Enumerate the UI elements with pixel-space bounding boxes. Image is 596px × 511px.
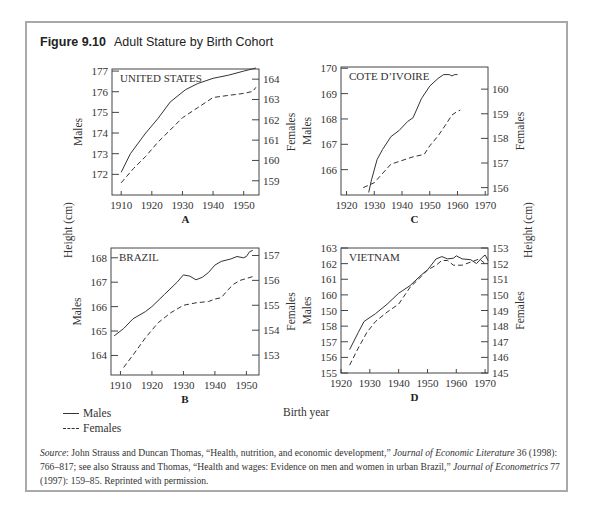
plot-box-B <box>111 248 259 375</box>
y2-tick-label: 153 <box>263 349 280 361</box>
x-tick-label: 1930 <box>363 199 386 211</box>
x-tick-label: 1930 <box>172 379 195 391</box>
y-tick-label: 150 <box>321 305 338 317</box>
x-tick-label: 1910 <box>110 199 133 211</box>
x-tick-label: 1950 <box>233 199 256 211</box>
legend-item-females: Females <box>63 421 121 436</box>
solid-line-swatch <box>63 413 79 414</box>
males-axis-label: Males <box>301 116 313 145</box>
y2-tick-label: 149 <box>492 305 509 317</box>
dashed-line-swatch <box>63 428 79 429</box>
y-tick-label: 168 <box>321 113 338 125</box>
y-tick-label: 168 <box>91 252 108 264</box>
females-line <box>124 277 253 368</box>
y2-tick-label: 163 <box>263 93 280 105</box>
country-label: VIETNAM <box>349 251 400 263</box>
source-text: : John Strauss and Duncan Thomas, “Healt… <box>66 447 393 458</box>
y-tick-label: 170 <box>321 62 338 74</box>
y2-tick-label: 152 <box>492 258 509 270</box>
y-tick-label: 173 <box>92 148 109 160</box>
panel-label: C <box>411 213 419 225</box>
females-line <box>350 259 488 365</box>
x-tick-label: 1940 <box>202 199 225 211</box>
y-tick-label: 158 <box>321 320 338 332</box>
legend-label: Males <box>83 406 111 421</box>
x-tick-label: 1930 <box>171 199 194 211</box>
x-tick-label: 1940 <box>388 377 411 389</box>
y-tick-label: 155 <box>321 367 338 379</box>
y-tick-label: 160 <box>321 289 338 301</box>
females-line <box>121 87 256 183</box>
females-line <box>363 110 460 188</box>
shared-x-axis-label: Birth year <box>283 406 329 418</box>
y2-tick-label: 145 <box>492 367 509 379</box>
x-tick-label: 1960 <box>446 199 469 211</box>
y-tick-label: 161 <box>321 273 338 285</box>
x-tick-label: 1940 <box>204 379 227 391</box>
y2-tick-label: 164 <box>263 73 280 85</box>
y2-tick-label: 156 <box>492 182 509 194</box>
y-tick-label: 164 <box>91 349 108 361</box>
males-line <box>369 75 458 193</box>
y-tick-label: 177 <box>92 65 109 77</box>
y2-tick-label: 157 <box>263 249 280 261</box>
y2-tick-label: 154 <box>263 324 280 336</box>
legend: Males Females <box>63 406 121 436</box>
plot-box-C <box>341 67 488 195</box>
males-line <box>350 255 488 350</box>
journal-name: Journal of Econometrics <box>453 461 548 472</box>
y2-tick-label: 150 <box>492 289 509 301</box>
y-tick-label: 157 <box>321 336 338 348</box>
males-axis-label: Males <box>72 117 84 146</box>
panel-label: D <box>411 391 419 403</box>
y-tick-label: 166 <box>321 164 338 176</box>
x-tick-label: 1950 <box>416 377 439 389</box>
y2-tick-label: 159 <box>263 175 280 187</box>
x-tick-label: 1950 <box>235 379 258 391</box>
legend-item-males: Males <box>63 406 121 421</box>
y-tick-label: 175 <box>92 106 109 118</box>
source-prefix: Source <box>40 447 66 458</box>
x-tick-label: 1940 <box>391 199 414 211</box>
females-axis-label: Females <box>285 292 297 331</box>
panel-label: B <box>181 393 189 405</box>
legend-label: Females <box>83 421 121 436</box>
y2-tick-label: 146 <box>492 351 509 363</box>
y2-tick-label: 147 <box>492 336 509 348</box>
y2-tick-label: 160 <box>492 83 509 95</box>
x-tick-label: 1970 <box>474 199 497 211</box>
source-note: Source: John Strauss and Duncan Thomas, … <box>40 446 560 488</box>
y2-tick-label: 158 <box>492 132 509 144</box>
y-tick-label: 166 <box>91 301 108 313</box>
y2-tick-label: 162 <box>263 114 280 126</box>
y2-tick-label: 155 <box>263 299 280 311</box>
journal-name: Journal of Economic Literature <box>393 447 514 458</box>
x-tick-label: 1950 <box>419 199 442 211</box>
y-tick-label: 165 <box>91 325 108 337</box>
x-tick-label: 1910 <box>109 379 132 391</box>
plot-box-D <box>341 248 488 373</box>
y-tick-label: 172 <box>92 168 109 180</box>
height-label-right: Height (cm) <box>522 202 535 258</box>
y2-tick-label: 148 <box>492 320 509 332</box>
country-label: BRAZIL <box>119 251 159 263</box>
y-tick-label: 167 <box>91 276 108 288</box>
x-tick-label: 1920 <box>336 199 359 211</box>
y2-tick-label: 156 <box>263 274 280 286</box>
x-tick-label: 1930 <box>359 377 382 389</box>
y-tick-label: 167 <box>321 138 338 150</box>
y-tick-label: 174 <box>92 127 109 139</box>
y2-tick-label: 161 <box>263 134 280 146</box>
males-axis-label: Males <box>71 297 83 326</box>
y2-tick-label: 159 <box>492 108 509 120</box>
females-axis-label: Females <box>285 112 297 151</box>
females-axis-label: Females <box>514 291 526 330</box>
y2-tick-label: 157 <box>492 157 509 169</box>
y-tick-label: 156 <box>321 351 338 363</box>
x-tick-label: 1960 <box>445 377 468 389</box>
females-axis-label: Females <box>514 111 526 150</box>
y-tick-label: 169 <box>321 88 338 100</box>
country-label: COTE D’IVOIRE <box>349 70 430 82</box>
plot-box-A <box>112 69 259 195</box>
x-tick-label: 1920 <box>141 379 164 391</box>
